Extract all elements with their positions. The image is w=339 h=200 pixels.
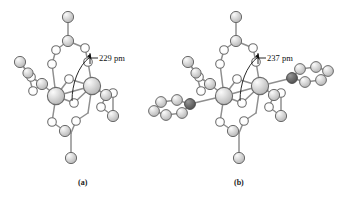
panel-b-structure: 237 pm [149, 11, 334, 163]
structure-canvas: 229 pm [0, 0, 339, 200]
figure-root: 229 pm [0, 0, 339, 200]
panel-caption-a: (a) [78, 178, 87, 187]
panel-b-right-ring-atoms [287, 62, 334, 88]
panel-a-structure: 229 pm [14, 11, 125, 163]
panel-b-left-ring-atoms [149, 95, 196, 121]
dimension-label-a: 229 pm [99, 53, 125, 63]
dimension-label-b: 237 pm [267, 53, 293, 63]
panel-caption-b: (b) [234, 178, 244, 187]
